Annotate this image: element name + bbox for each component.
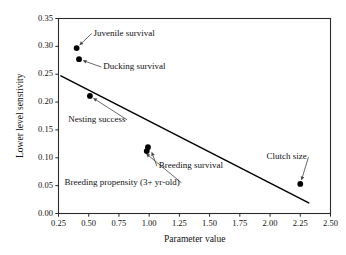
x-tick-label: 2.00	[263, 219, 278, 228]
y-tick-label: 0.05	[38, 181, 53, 190]
x-axis-title: Parameter value	[164, 235, 225, 245]
annotation-label: Breeding propensity (3+ yr-old)	[65, 178, 180, 187]
x-tick-label: 2.50	[323, 219, 338, 228]
x-tick-label: 1.50	[202, 219, 217, 228]
annotation-label: Nesting success	[68, 115, 125, 124]
annotation-label: Clutch size	[266, 152, 306, 161]
x-tick-label: 0.25	[51, 219, 66, 228]
x-tick-label: 1.75	[232, 219, 247, 228]
annotation-label: Juvenile survival	[94, 29, 155, 38]
y-axis-title: Lower level senstivity	[16, 74, 26, 158]
annotation-label: Breeding survival	[159, 161, 223, 170]
x-tick-label: 2.25	[293, 219, 308, 228]
annotation-label: Ducking survival	[103, 62, 165, 71]
y-tick-label: 0.00	[38, 209, 53, 218]
x-tick-label: 0.50	[81, 219, 96, 228]
y-tick-label: 0.25	[38, 69, 53, 78]
y-tick-label: 0.30	[38, 41, 53, 50]
x-tick-label: 1.00	[142, 219, 157, 228]
y-tick-label: 0.10	[38, 153, 53, 162]
y-tick-label: 0.20	[38, 97, 53, 106]
x-tick-label: 1.25	[172, 219, 187, 228]
x-tick-label: 0.75	[111, 219, 126, 228]
y-tick-label: 0.15	[38, 125, 53, 134]
chart-figure: 0.250.500.751.001.251.501.752.002.252.50…	[0, 0, 346, 255]
y-tick-label: 0.35	[38, 14, 53, 23]
